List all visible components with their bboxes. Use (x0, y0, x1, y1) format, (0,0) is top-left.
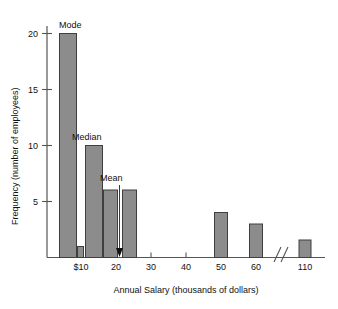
y-axis-title: Frequency (number of employees) (10, 87, 20, 225)
histogram-chart: 20 15 10 5 $10 20 30 40 50 60 (0, 0, 338, 309)
bar-median (86, 146, 103, 258)
annotation-mean-label: Mean (100, 173, 123, 183)
bar-small-10 (78, 247, 84, 258)
y-tick-label-15: 15 (28, 85, 38, 95)
axis-break-slash-1 (274, 247, 281, 262)
x-tick-label-40: 40 (181, 262, 191, 272)
x-tick-label-20: 20 (111, 262, 121, 272)
chart-canvas: 20 15 10 5 $10 20 30 40 50 60 (0, 0, 338, 309)
x-tick-label-30: 30 (146, 262, 156, 272)
x-tick-label-60: 60 (251, 262, 261, 272)
y-tick-label-5: 5 (33, 197, 38, 207)
x-tick-label-50: 50 (216, 262, 226, 272)
bar-mode (60, 34, 77, 258)
bar-60 (250, 224, 263, 258)
y-tick-label-10: 10 (28, 141, 38, 151)
x-tick-labels: $10 20 30 40 50 60 110 (73, 262, 312, 272)
x-axis-title: Annual Salary (thousands of dollars) (113, 285, 258, 295)
bar-fourth (123, 190, 137, 258)
bar-50 (215, 213, 228, 258)
axis-break-slash-2 (281, 247, 288, 262)
annotation-median-label: Median (72, 132, 102, 142)
bars-group (60, 34, 312, 258)
annotation-mode-label: Mode (59, 20, 82, 30)
bar-110 (299, 240, 311, 258)
x-tick-label-10: $10 (73, 262, 88, 272)
y-tick-labels: 20 15 10 5 (28, 29, 38, 207)
bar-third (104, 190, 118, 258)
y-tick-label-20: 20 (28, 29, 38, 39)
axis-break-marker (274, 247, 288, 262)
x-tick-label-110: 110 (298, 262, 312, 272)
